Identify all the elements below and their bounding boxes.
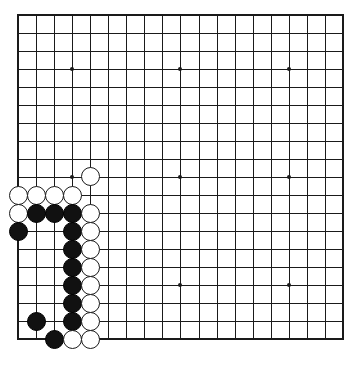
grid-line-vertical — [126, 15, 127, 340]
grid-line-vertical — [162, 15, 163, 340]
white-stone[interactable] — [45, 186, 64, 205]
star-point — [178, 175, 182, 179]
star-point — [287, 175, 291, 179]
black-stone[interactable] — [45, 204, 64, 223]
black-stone[interactable] — [63, 276, 82, 295]
white-stone[interactable] — [81, 276, 100, 295]
white-stone[interactable] — [9, 186, 28, 205]
grid-line-vertical — [17, 14, 19, 341]
black-stone[interactable] — [9, 222, 28, 241]
star-point — [70, 67, 74, 71]
white-stone[interactable] — [81, 167, 100, 186]
grid-line-vertical — [54, 15, 55, 340]
star-point — [178, 283, 182, 287]
black-stone[interactable] — [45, 330, 64, 349]
black-stone[interactable] — [63, 240, 82, 259]
black-stone[interactable] — [63, 258, 82, 277]
go-board-figure — [0, 0, 353, 365]
grid-line-vertical — [217, 15, 218, 340]
star-point — [287, 67, 291, 71]
white-stone[interactable] — [81, 330, 100, 349]
white-stone[interactable] — [27, 186, 46, 205]
grid-line-vertical — [271, 15, 272, 340]
grid-line-vertical — [144, 15, 145, 340]
white-stone[interactable] — [9, 204, 28, 223]
white-stone[interactable] — [81, 222, 100, 241]
white-stone[interactable] — [63, 330, 82, 349]
white-stone[interactable] — [81, 294, 100, 313]
star-point — [178, 67, 182, 71]
goban[interactable] — [0, 0, 353, 365]
star-point — [70, 175, 74, 179]
white-stone[interactable] — [63, 186, 82, 205]
black-stone[interactable] — [63, 222, 82, 241]
black-stone[interactable] — [63, 204, 82, 223]
grid-line-vertical — [253, 15, 254, 340]
grid-line-vertical — [307, 15, 308, 340]
grid-line-vertical — [325, 15, 326, 340]
grid-line-vertical — [199, 15, 200, 340]
white-stone[interactable] — [81, 240, 100, 259]
black-stone[interactable] — [27, 204, 46, 223]
black-stone[interactable] — [27, 312, 46, 331]
white-stone[interactable] — [81, 258, 100, 277]
black-stone[interactable] — [63, 312, 82, 331]
grid-line-vertical — [108, 15, 109, 340]
white-stone[interactable] — [81, 312, 100, 331]
star-point — [287, 283, 291, 287]
grid-line-vertical — [342, 14, 344, 341]
grid-line-vertical — [235, 15, 236, 340]
grid-line-vertical — [36, 15, 37, 340]
white-stone[interactable] — [81, 204, 100, 223]
black-stone[interactable] — [63, 294, 82, 313]
